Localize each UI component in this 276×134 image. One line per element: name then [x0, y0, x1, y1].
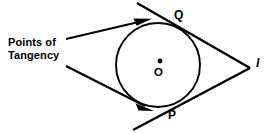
diagram-canvas: [0, 0, 276, 134]
caption-line-1: Points of: [8, 36, 56, 48]
label-point-q: Q: [174, 8, 183, 22]
label-external-point-l: l: [256, 56, 259, 71]
points-of-tangency-caption: Points ofTangency: [8, 36, 59, 62]
upper-tangent-line: [137, 3, 250, 68]
upper-leader-arrow-shaft: [66, 21, 143, 39]
caption-line-2: Tangency: [8, 49, 59, 61]
label-center-o: O: [154, 66, 163, 80]
label-point-p: P: [168, 108, 176, 122]
lower-leader-arrow-shaft: [66, 66, 145, 106]
circle-o: [116, 23, 200, 107]
tangency-diagram: Points ofTangency Q P O l: [0, 0, 276, 134]
circle-center-dot: [158, 59, 163, 64]
lower-tangent-line: [133, 68, 250, 130]
